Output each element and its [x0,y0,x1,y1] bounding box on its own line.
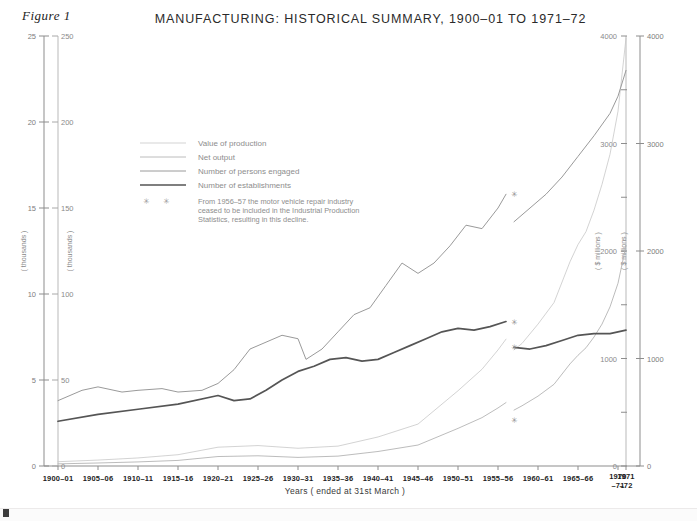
x-tick-label: 1920–21 [203,474,234,483]
x-axis-title: Years ( ended at 31st March ) [285,486,405,496]
break-marker-3: ✳ [511,416,518,425]
x-tick-label: 1940–41 [363,474,394,483]
break-marker-1: ✳ [511,318,518,327]
series-line-2 [58,194,506,400]
x-tick-label: 1935–36 [323,474,354,483]
y-axis-unit-left-outer: ( thousands ) [20,231,28,272]
break-marker-2: ✳ [511,343,518,352]
x-tick-label: 1950–51 [443,474,474,483]
y-tick-label-left-inner: 250 [61,32,74,41]
x-tick-label: 1905–06 [83,474,114,483]
y-tick-label-left-outer: 0 [32,462,36,471]
y-tick-label-right-inner: 4000 [600,32,617,41]
y-axis-unit-right-inner: ( $ millions ) [594,232,602,270]
x-tick-label: 1930–31 [283,474,314,483]
y-tick-label-right-inner: 0 [613,462,617,471]
legend-note-line-1: ceased to be included in the Industrial … [198,206,359,215]
x-tick-label: 1971 [617,472,635,481]
x-tick-label: 1900–01 [43,474,74,483]
y-tick-label-right-inner: 3000 [600,140,617,149]
y-tick-label-left-inner: 100 [61,290,74,299]
legend-marker-icon-b: ✳ [163,197,170,206]
series-line-0 [514,38,626,350]
y-tick-label-right-outer: 3000 [647,140,664,149]
legend-label-3: Number of establishments [198,181,291,190]
x-tick-label: –72 [619,481,632,490]
legend-marker-icon-a: ✳ [143,197,150,206]
y-tick-label-left-outer: 5 [32,376,36,385]
y-tick-label-left-inner: 150 [61,204,74,213]
legend-label-2: Number of persons engaged [198,167,299,176]
legend-label-0: Value of production [198,139,266,148]
y-tick-label-right-outer: 0 [647,462,651,471]
legend-note-line-2: Statistics, resulting in this decline. [198,215,309,224]
x-tick-label: 1965–66 [563,474,594,483]
y-tick-label-right-outer: 2000 [647,247,664,256]
y-axis-unit-left-inner: ( thousands ) [66,231,74,272]
legend-note-line-0: From 1956–57 the motor vehicle repair in… [198,197,354,206]
y-tick-label-left-outer: 15 [28,204,36,213]
y-tick-label-right-inner: 1000 [600,355,617,364]
y-tick-label-right-outer: 1000 [647,355,664,364]
series-line-0 [58,339,506,462]
series-line-1 [58,403,506,464]
series-line-1 [514,246,626,410]
legend-label-1: Net output [198,153,236,162]
x-tick-label: 1945–46 [403,474,434,483]
y-tick-label-left-inner: 200 [61,118,74,127]
y-tick-label-left-outer: 20 [28,118,36,127]
y-tick-label-left-inner: 50 [61,376,69,385]
y-tick-label-left-outer: 25 [28,32,36,41]
break-marker-0: ✳ [511,190,518,199]
y-tick-label-right-outer: 4000 [647,32,664,41]
y-tick-label-left-outer: 10 [28,290,36,299]
x-tick-label: 1910–11 [123,474,153,483]
x-tick-label: 1955–56 [483,474,514,483]
y-tick-label-right-inner: 2000 [600,247,617,256]
x-tick-label: 1960–61 [523,474,554,483]
x-tick-label: 1925–26 [243,474,274,483]
x-tick-label: 1915–16 [163,474,194,483]
y-axis-unit-right-outer: ( $ millions ) [620,232,628,270]
page-footer-strip [0,508,697,521]
page-corner-mark [3,509,9,517]
